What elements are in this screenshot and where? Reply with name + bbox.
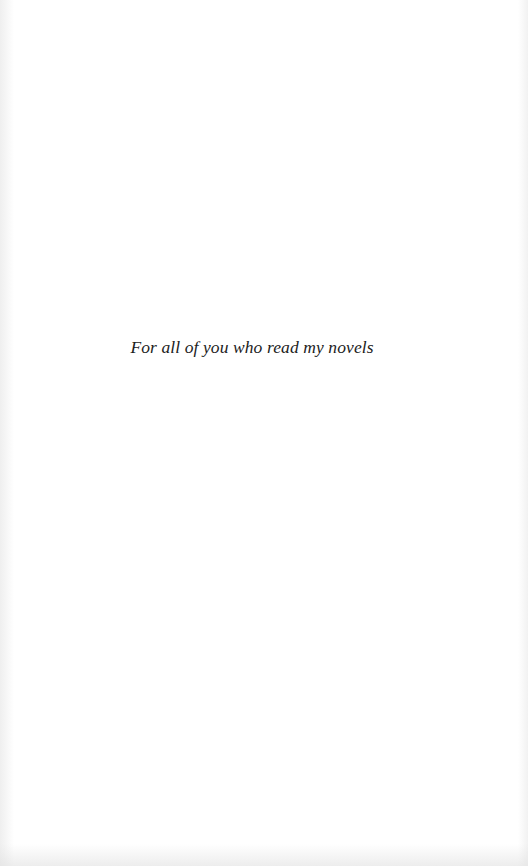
scan-edge-shadow-right bbox=[518, 0, 528, 866]
dedication-page: For all of you who read my novels bbox=[0, 0, 528, 866]
scan-edge-shadow-left bbox=[0, 0, 14, 866]
scan-edge-shadow-bottom bbox=[0, 844, 528, 866]
dedication-text: For all of you who read my novels bbox=[0, 337, 504, 358]
